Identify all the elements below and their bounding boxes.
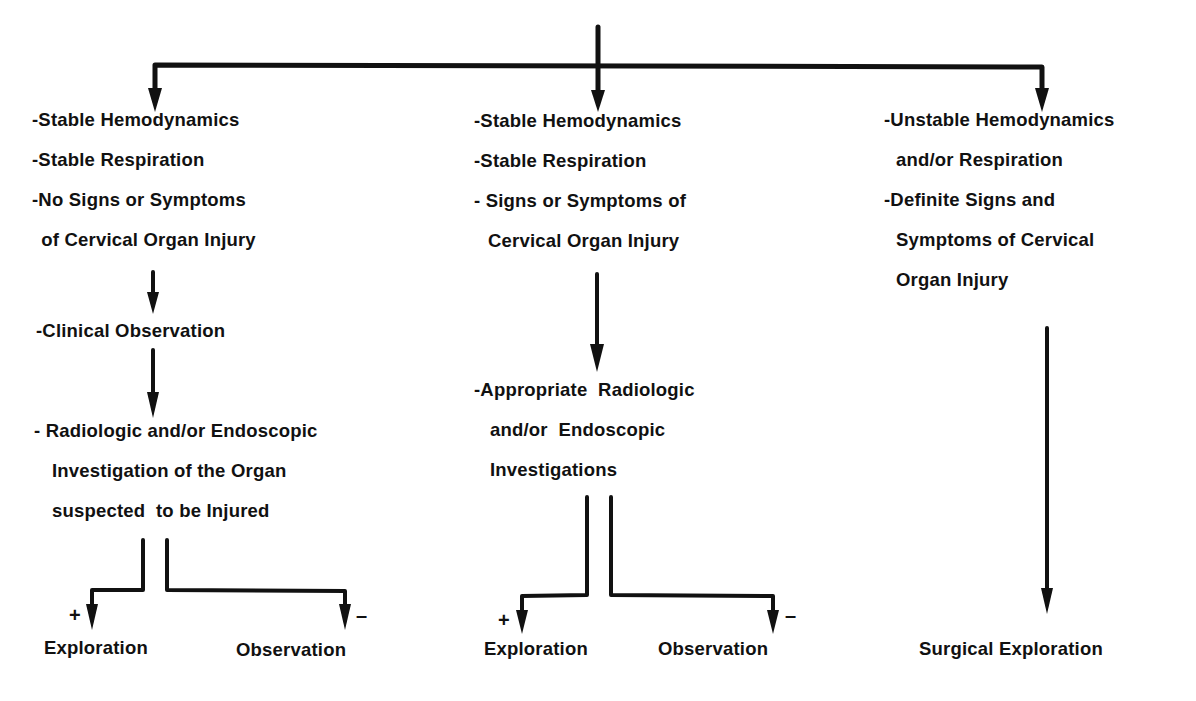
- middle-outcome-exploration: Exploration: [484, 640, 588, 659]
- left-step-investigation-3: suspected to be Injured: [52, 502, 270, 521]
- middle-negative-sign: –: [785, 605, 796, 625]
- right-criteria-5: Organ Injury: [896, 271, 1008, 290]
- left-step-investigation-2: Investigation of the Organ: [52, 462, 286, 481]
- middle-criteria-2: -Stable Respiration: [474, 152, 646, 171]
- left-criteria-3: -No Signs or Symptoms: [32, 191, 246, 210]
- arrow-head-icon: [591, 90, 605, 112]
- left-step-clinical-observation: -Clinical Observation: [36, 322, 225, 341]
- arrow-head-icon: [767, 610, 779, 634]
- middle-criteria-3: - Signs or Symptoms of: [474, 192, 686, 211]
- middle-step-investigation-1: -Appropriate Radiologic: [474, 381, 695, 400]
- left-outcome-exploration: Exploration: [44, 639, 148, 658]
- flowchart-connectors: [0, 0, 1196, 701]
- middle-outcome-observation: Observation: [658, 640, 768, 659]
- left-positive-sign: +: [69, 605, 81, 625]
- right-outcome-surgical-exploration: Surgical Exploration: [919, 640, 1103, 659]
- middle-step-investigation-3: Investigations: [490, 461, 617, 480]
- left-outcome-observation: Observation: [236, 641, 346, 660]
- middle-positive-sign: +: [498, 610, 510, 630]
- middle-step-investigation-2: and/or Endoscopic: [490, 421, 665, 440]
- arrow-head-icon: [590, 344, 604, 372]
- arrow-head-icon: [339, 604, 351, 630]
- right-criteria-1: -Unstable Hemodynamics: [884, 111, 1115, 130]
- middle-criteria-1: -Stable Hemodynamics: [474, 112, 682, 131]
- right-criteria-3: -Definite Signs and: [884, 191, 1055, 210]
- arrow-head-icon: [86, 604, 98, 630]
- left-criteria-1: -Stable Hemodynamics: [32, 111, 240, 130]
- left-step-investigation-1: - Radiologic and/or Endoscopic: [34, 422, 318, 441]
- left-negative-sign: –: [356, 605, 367, 625]
- arrow-head-icon: [147, 292, 159, 314]
- arrow-head-icon: [147, 392, 159, 418]
- flowchart: -Stable Hemodynamics -Stable Respiration…: [0, 0, 1196, 701]
- right-criteria-4: Symptoms of Cervical: [896, 231, 1094, 250]
- right-criteria-2: and/or Respiration: [896, 151, 1063, 170]
- left-criteria-2: -Stable Respiration: [32, 151, 204, 170]
- middle-criteria-4: Cervical Organ Injury: [488, 232, 679, 251]
- arrow-head-icon: [516, 610, 528, 634]
- left-criteria-4: of Cervical Organ Injury: [36, 231, 256, 250]
- arrow-head-icon: [1041, 588, 1053, 614]
